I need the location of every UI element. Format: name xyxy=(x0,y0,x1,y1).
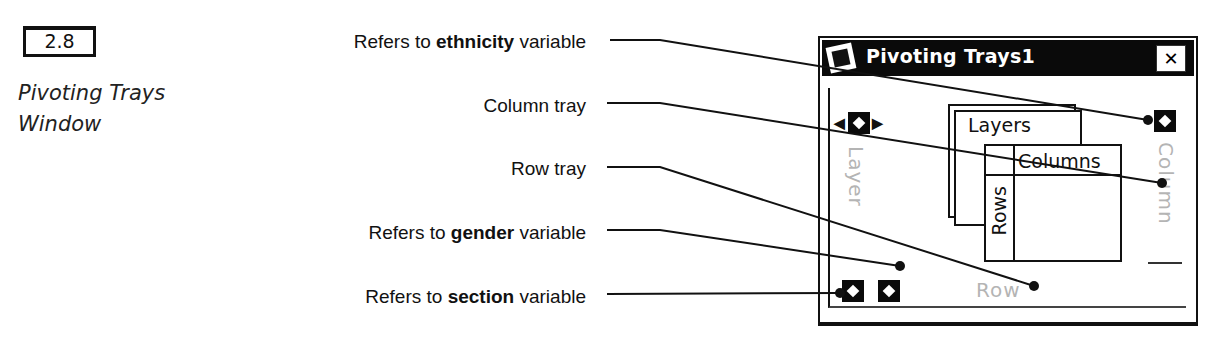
rows-label: Rows xyxy=(988,186,1010,235)
callout-section: Refers to section variable xyxy=(365,286,586,308)
column-tray-divider xyxy=(1148,262,1182,264)
ethnicity-pivot-icon[interactable] xyxy=(848,112,870,134)
figure-caption: Pivoting Trays Window xyxy=(18,78,218,140)
figure-caption-line2: Window xyxy=(18,109,218,140)
callout-gender: Refers to gender variable xyxy=(368,222,586,244)
section-pivot-icon[interactable] xyxy=(842,280,864,302)
close-button[interactable]: ✕ xyxy=(1156,45,1186,72)
window-title: Pivoting Trays1 xyxy=(866,45,1035,67)
trays-area: ◀ ▶ Layer Layers Columns Rows Column Row xyxy=(828,88,1186,308)
pivot-table-diagram: Columns Rows xyxy=(984,144,1122,262)
columns-label: Columns xyxy=(1018,150,1101,172)
callout-row-tray: Row tray xyxy=(511,158,586,180)
figure-number: 2.8 xyxy=(23,26,96,57)
layer-pivot-icon-group[interactable]: ◀ ▶ xyxy=(834,112,892,136)
layer-tray-label[interactable]: Layer xyxy=(844,146,868,207)
leader-section xyxy=(607,293,840,294)
gender-pivot-icon[interactable] xyxy=(878,280,900,302)
arrow-right-icon: ▶ xyxy=(872,116,883,130)
arrow-left-icon: ◀ xyxy=(834,116,845,130)
callout-column-tray: Column tray xyxy=(484,95,586,117)
callout-ethnicity: Refers to ethnicity variable xyxy=(354,31,586,53)
pivoting-trays-window: Pivoting Trays1 ✕ ◀ ▶ Layer Layers Colum… xyxy=(818,36,1198,326)
diagram-divider-vertical xyxy=(1013,146,1015,260)
column-tray-label[interactable]: Column xyxy=(1154,142,1178,225)
figure-caption-line1: Pivoting Trays xyxy=(18,78,218,109)
layers-label: Layers xyxy=(968,114,1031,136)
title-bar[interactable]: Pivoting Trays1 ✕ xyxy=(822,40,1194,76)
row-tray-label[interactable]: Row xyxy=(976,278,1021,302)
column-pivot-icon[interactable] xyxy=(1154,110,1176,132)
diagram-divider-horizontal xyxy=(986,174,1120,176)
app-icon xyxy=(826,43,857,74)
